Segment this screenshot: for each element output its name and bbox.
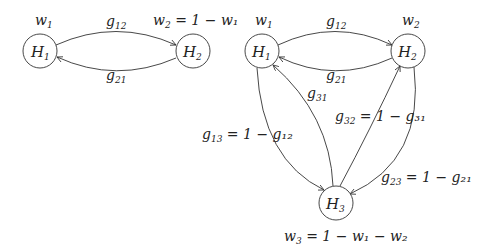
edge-g32 [340,66,400,186]
two-state-diagram: H1 H2 w1 w2 = 1 − w₁ g12 g21 [23,12,238,85]
edge-label-g23: g23 = 1 − g₂₁ [381,169,472,187]
edge-label-g12: g12 [326,13,347,31]
weight-w2: w2 = 1 − w₁ [153,12,238,30]
weight-w2: w2 [402,12,420,30]
weight-w1: w1 [255,12,273,30]
markov-diagrams: H1 H2 w1 w2 = 1 − w₁ g12 g21 H1 H2 H3 w1… [0,0,477,249]
edge-g21 [57,57,176,71]
weight-w1: w1 [35,12,53,30]
three-state-diagram: H1 H2 H3 w1 w2 w3 = 1 − w₁ − w₂ g12 g21 … [202,12,472,246]
edge-g12 [278,32,392,46]
edge-label-g13: g13 = 1 − g₁₂ [202,126,293,144]
edge-label-g21: g21 [326,67,346,85]
weight-w3: w3 = 1 − w₁ − w₂ [284,228,408,246]
edge-label-g21: g21 [106,67,126,85]
edge-label-g32: g32 = 1 − g₃₁ [335,108,426,126]
edge-label-g31: g31 [307,85,327,103]
edge-g21 [279,57,392,71]
edge-label-g12: g12 [106,13,127,31]
edge-g12 [56,32,176,46]
